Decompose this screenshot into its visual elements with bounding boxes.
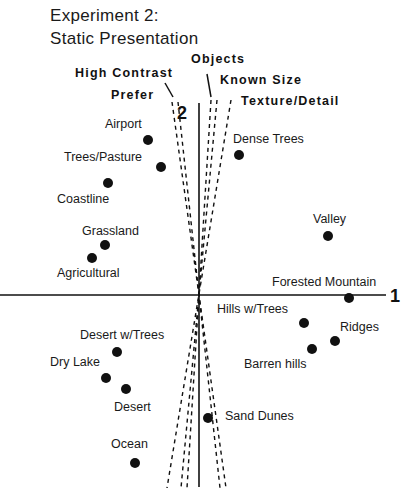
point-dry-lake (101, 373, 111, 383)
label-valley: Valley (313, 212, 346, 226)
point-ocean (130, 458, 140, 468)
label-barren-hills: Barren hills (244, 357, 307, 371)
point-grassland (100, 240, 110, 250)
dimension-objects: Objects (191, 52, 245, 66)
scatter-plot (0, 0, 409, 498)
point-airport (143, 135, 153, 145)
dimension-high-contrast: High Contrast (75, 66, 173, 80)
point-forested-mountain (344, 293, 354, 303)
label-trees-pasture: Trees/Pasture (64, 150, 142, 164)
label-forested-mountain: Forested Mountain (272, 275, 376, 289)
point-desert-w-trees (112, 347, 122, 357)
leader-objects (207, 74, 211, 97)
point-ridges (330, 336, 340, 346)
label-sand-dunes: Sand Dunes (225, 409, 294, 423)
label-agricultural: Agricultural (57, 266, 120, 280)
point-sand-dunes (203, 413, 213, 423)
point-valley (323, 231, 333, 241)
point-agricultural (87, 253, 97, 263)
label-ridges: Ridges (340, 320, 379, 334)
dimension-prefer: Prefer (111, 88, 154, 102)
label-coastline: Coastline (57, 192, 109, 206)
dimension-known-size: Known Size (220, 73, 302, 87)
label-airport: Airport (105, 117, 142, 131)
label-desert-w-trees: Desert w/Trees (80, 328, 164, 342)
point-desert (121, 384, 131, 394)
axis-1-label: 1 (390, 286, 400, 307)
label-desert: Desert (114, 400, 151, 414)
point-barren-hills (307, 344, 317, 354)
point-hills-w-trees (299, 318, 309, 328)
dimension-texture-detail: Texture/Detail (241, 94, 340, 108)
leader-high-contrast (165, 83, 173, 97)
label-hills-w-trees: Hills w/Trees (217, 302, 288, 316)
label-grassland: Grassland (82, 224, 139, 238)
point-dense-trees (234, 150, 244, 160)
point-trees-pasture (156, 162, 166, 172)
label-dense-trees: Dense Trees (233, 132, 304, 146)
label-ocean: Ocean (111, 437, 148, 451)
axis-2-label: 2 (177, 103, 187, 124)
point-coastline (103, 178, 113, 188)
label-dry-lake: Dry Lake (50, 355, 100, 369)
